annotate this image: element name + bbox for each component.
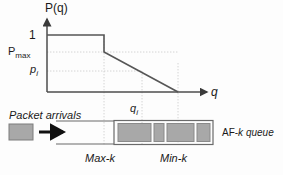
arriving-packet	[9, 124, 33, 140]
x-axis-label: q	[211, 86, 218, 98]
queued-packet	[118, 124, 151, 142]
drop-probability-curve	[47, 35, 178, 92]
pi-sub: i	[36, 69, 38, 78]
pmax-sub: max	[15, 51, 30, 60]
y-tick-pi-label: pi	[30, 64, 38, 78]
axes	[47, 19, 207, 92]
y-tick-pmax-label: Pmax	[8, 46, 30, 60]
queued-packet	[167, 124, 194, 142]
queued-packet	[197, 124, 210, 142]
y-tick-one-label: 1	[29, 29, 36, 41]
queued-packets	[118, 124, 210, 142]
x-marker-mink-label: Min-k	[160, 153, 187, 164]
diagram-root: P(q) 1 Pmax pi q qi Packet arrivals Max-…	[0, 0, 283, 175]
queued-packet	[154, 124, 164, 142]
queue-label-italic: k queue	[238, 127, 274, 138]
af-k-queue-label: AF-k queue	[222, 128, 274, 138]
figure-canvas	[0, 0, 283, 175]
queue-label-prefix: AF-	[222, 127, 238, 138]
x-marker-qi-label: qi	[130, 103, 138, 117]
packet-arrivals-label: Packet arrivals	[9, 110, 81, 121]
y-axis-label: P(q)	[45, 2, 68, 14]
x-marker-maxk-label: Max-k	[85, 153, 115, 164]
qi-sub: i	[136, 108, 138, 117]
